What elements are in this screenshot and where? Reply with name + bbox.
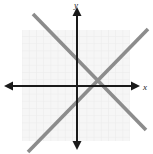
y-axis-bottom-arrowhead: [73, 141, 82, 150]
x-axis-right-arrowhead: [131, 82, 140, 91]
x-axis-left-arrowhead: [4, 82, 13, 91]
y-axis-label: y: [74, 1, 78, 10]
graph-figure: y x: [0, 0, 153, 154]
coordinate-plane-svg: [0, 0, 153, 154]
x-axis-label: x: [143, 83, 147, 92]
